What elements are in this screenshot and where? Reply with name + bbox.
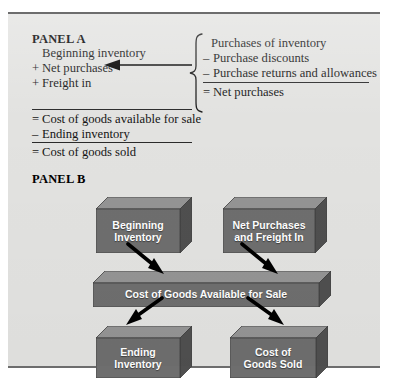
arrow-available-to-ending-inventory-icon (118, 296, 164, 332)
figure-frame: PANEL A Beginning inventory +Net purchas… (8, 12, 380, 368)
cost-of-goods-sold-figure: PANEL A Beginning inventory +Net purchas… (0, 0, 398, 386)
panel-a-right-line-net-purchases: =Net purchases (203, 85, 284, 100)
panel-a-line-ending-inventory: –Ending inventory (32, 127, 130, 142)
panel-a-right-3-text: Purchase returns and allowances (213, 66, 377, 80)
panel-a-right-line-returns-allowances: –Purchase returns and allowances (203, 66, 377, 81)
panel-a-right-4-text: Net purchases (213, 85, 284, 99)
panel-b-title: PANEL B (32, 172, 86, 187)
panel-a-line-6-text: Cost of goods sold (42, 145, 136, 159)
box-ending-inventory: Ending Inventory (96, 326, 192, 378)
panel-a-line-freight-in: +Freight in (32, 76, 91, 91)
panel-a-line-4-text: Cost of goods available for sale (42, 112, 201, 126)
panel-a-right-line-purchase-discounts: –Purchase discounts (203, 51, 309, 66)
panel-a-divider-2 (32, 142, 192, 143)
panel-a-right-1-text: Purchases of inventory (211, 36, 326, 50)
panel-a-line-2-text: Net purchases (42, 61, 113, 75)
panel-a-right-2-text: Purchase discounts (213, 51, 309, 65)
box-cost-of-goods-sold: Cost of Goods Sold (230, 326, 328, 378)
panel-a-title: PANEL A (32, 32, 86, 47)
panel-a-line-cost-of-goods-available: =Cost of goods available for sale (32, 112, 201, 127)
panel-a-line-4-op: = (32, 112, 42, 127)
panel-a-line-5-op: – (32, 127, 42, 142)
panel-a-line-5-text: Ending inventory (42, 127, 130, 141)
left-arrow-icon (104, 58, 192, 76)
panel-a-line-2-op: + (32, 61, 42, 76)
panel-a-right-line-purchases: Purchases of inventory (211, 36, 326, 51)
panel-a-line-6-op: = (32, 145, 42, 160)
panel-a-line-net-purchases: +Net purchases (32, 61, 113, 76)
panel-a-line-3-text: Freight in (42, 76, 91, 90)
panel-a-right-divider (203, 82, 369, 83)
panel-a-line-3-op: + (32, 76, 42, 91)
panel-a-divider-1 (32, 109, 192, 110)
arrow-beginning-inventory-to-available-icon (126, 242, 172, 282)
panel-a-line-cost-of-goods-sold: =Cost of goods sold (32, 145, 136, 160)
arrow-available-to-cost-of-goods-sold-icon (246, 296, 292, 332)
arrow-net-purchases-to-available-icon (240, 242, 286, 282)
